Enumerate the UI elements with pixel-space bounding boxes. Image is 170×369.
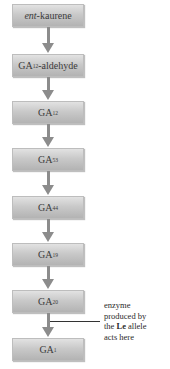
step-label: -kaurene [37, 10, 72, 21]
step-ga12: GA12 [12, 101, 84, 124]
step-ga1: GA1 [12, 338, 84, 361]
step-prefix-italic: ent [24, 10, 36, 21]
arrow-down-icon [42, 77, 54, 101]
annotation-line-4: acts here [104, 332, 170, 343]
step-label: GA [18, 60, 32, 71]
arrow-down-icon [42, 124, 54, 148]
arrow-down-icon [42, 219, 54, 243]
annotation-line-1: enzyme [104, 300, 170, 311]
annotation-line-3: the Le allele [104, 321, 170, 332]
step-suffix: -aldehyde [38, 60, 77, 71]
le-allele-name: Le [117, 321, 126, 331]
step-ga44: GA44 [12, 196, 84, 219]
step-subscript: 44 [52, 205, 58, 211]
annotation-text: allele [126, 321, 147, 331]
step-label: GA [39, 344, 53, 355]
arrow-down-icon [42, 313, 54, 338]
step-subscript: 1 [54, 347, 57, 353]
step-label: GA [38, 202, 52, 213]
annotation-text: the [104, 321, 117, 331]
arrow-down-icon [42, 266, 54, 290]
step-subscript: 12 [52, 110, 58, 116]
arrow-down-icon [42, 27, 54, 54]
step-subscript: 19 [52, 252, 58, 258]
step-ga19: GA19 [12, 243, 84, 266]
step-label: GA [38, 296, 52, 307]
step-ga12-aldehyde: GA12-aldehyde [12, 54, 84, 77]
step-subscript: 20 [52, 299, 58, 305]
arrow-down-icon [42, 171, 54, 196]
step-ga53: GA53 [12, 148, 84, 171]
step-label: GA [38, 154, 52, 165]
step-ga20: GA20 [12, 290, 84, 313]
annotation-leader-line [50, 321, 100, 322]
step-subscript: 53 [52, 157, 58, 163]
step-label: GA [38, 107, 52, 118]
le-allele-annotation: enzyme produced by the Le allele acts he… [104, 300, 170, 342]
step-label: GA [38, 249, 52, 260]
annotation-line-2: produced by [104, 311, 170, 322]
step-ent-kaurene: ent-kaurene [12, 4, 84, 27]
